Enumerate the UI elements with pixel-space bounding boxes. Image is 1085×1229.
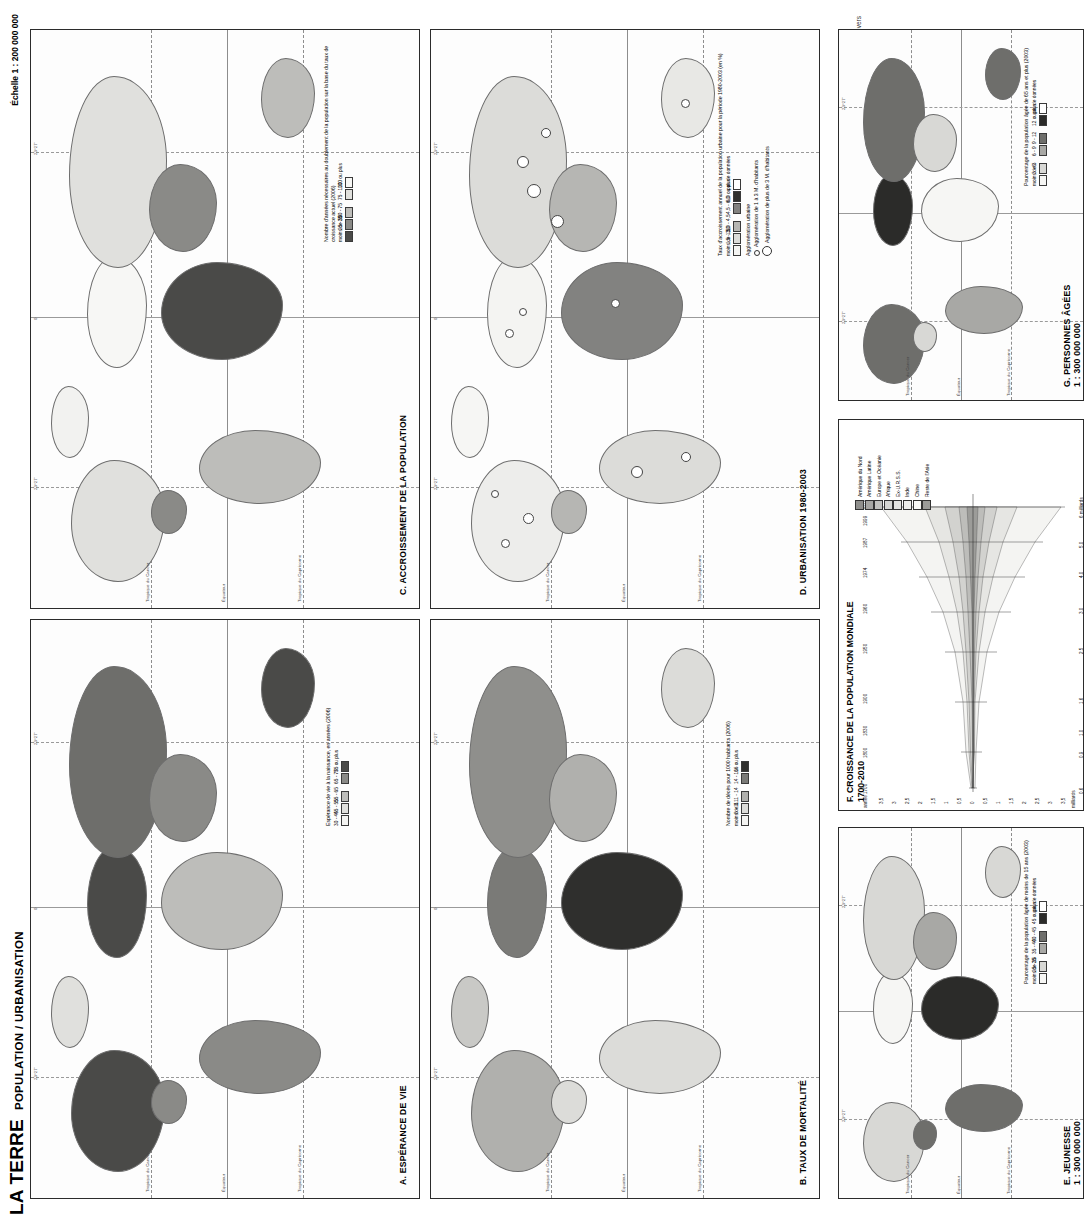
graticule-label-lat-n-d: 23°27' — [433, 477, 438, 490]
panel-e-scale: 1 : 300 000 000 — [1072, 1121, 1082, 1185]
panel-a-esperance-de-vie[interactable]: Tropique du Cancer Équateur Tropique du … — [30, 619, 420, 1199]
urban-agglomeration-circle — [631, 466, 643, 478]
legend-d-symbol-label-0: Agglomération de 1 à 3 M. d'habitants — [753, 160, 760, 247]
legend-a-label-0: 30 - 45 — [334, 815, 340, 826]
legend-c-swatch-3 — [345, 189, 353, 200]
urban-agglomeration-circle — [551, 215, 564, 228]
chart-f-ytick-8: 0,5 — [983, 798, 988, 804]
chart-f-ylabel: milliards — [1071, 790, 1076, 808]
urban-agglomeration-circle — [541, 128, 551, 138]
panel-b-caption: B. TAUX DE MORTALITÉ — [798, 1080, 808, 1185]
graticule-label-tropic-capricorn-a: Tropique du Capricorne — [297, 1145, 302, 1192]
legend-b-swatch-0 — [741, 815, 749, 826]
graticule-label-tropic-cancer-c: Tropique du Cancer — [145, 562, 150, 602]
legend-d-swatch-5 — [733, 179, 741, 190]
graticule-label-lat-s-g: 23°27' — [841, 97, 846, 110]
legend-a-swatch-3 — [341, 773, 349, 784]
chart-f-total-7: 5,0 — [1079, 542, 1084, 548]
legend-b-swatch-1 — [741, 803, 749, 814]
chart-f-total-5: 3,0 — [1079, 608, 1084, 614]
legend-d-label-4: 6,0 ou plus — [726, 191, 732, 202]
chart-f-legend-swatch-2 — [874, 500, 883, 510]
chart-f-total-1: 0,9 — [1079, 752, 1084, 758]
urban-agglomeration-circle — [527, 184, 541, 198]
chart-f-ytick-9: 1 — [996, 801, 1001, 804]
legend-b-label-0: moins de 8 — [734, 815, 740, 826]
chart-f-legend-label-2: Europe et Océanie — [876, 455, 882, 497]
graticule-label-equator-d: Équateur — [621, 584, 626, 602]
urban-agglomeration-circle — [501, 539, 510, 548]
map-b-canvas: Tropique du Cancer Équateur Tropique du … — [431, 620, 819, 1198]
urban-agglomeration-circle — [491, 490, 499, 498]
graticule-label-lat-0-c: 0 — [33, 318, 38, 321]
urban-agglomeration-circle — [519, 308, 527, 316]
legend-c-label-2: 50 - 75 — [338, 207, 344, 218]
graticule-label-tropic-cancer-g: Tropique du Cancer — [905, 356, 910, 396]
chart-f-ytick-6: 0,5 — [957, 798, 962, 804]
urban-agglomeration-circle — [505, 329, 514, 338]
chart-f-title: F. CROISSANCE DE LA POPULATION MONDIALE … — [845, 552, 866, 802]
graticule-label-tropic-cancer-a: Tropique du Cancer — [145, 1152, 150, 1192]
legend-b-swatch-2 — [741, 791, 749, 802]
legend-b-swatch-3 — [741, 773, 749, 784]
chart-f-ytick-11: 2 — [1022, 801, 1027, 804]
chart-f-legend-swatch-3 — [884, 500, 893, 510]
chart-f-xtick-1: 1800 — [863, 748, 868, 758]
panel-f-croissance-population-mondiale[interactable]: F. CROISSANCE DE LA POPULATION MONDIALE … — [838, 419, 1084, 811]
legend-d-swatch-2 — [733, 221, 741, 232]
urban-agglomeration-circle — [523, 513, 534, 524]
legend-a-label-2: 55 - 65 — [334, 791, 340, 802]
legend-a-swatch-1 — [341, 803, 349, 814]
graticule-label-tropic-capricorn-c: Tropique du Capricorne — [297, 555, 302, 602]
chart-f-xtick-5: 1960 — [863, 604, 868, 614]
graticule-label-equator-e: Équateur — [956, 1176, 961, 1194]
legend-e: Pourcentage de la population âgée de moi… — [1023, 834, 1047, 984]
legend-g-label-2: 6 - 9 — [1032, 145, 1038, 156]
legend-g-title: Pourcentage de la population âgée de 65 … — [1023, 36, 1030, 186]
legend-e-swatch-4 — [1039, 913, 1047, 924]
graticule-label-equator-g: Équateur — [956, 378, 961, 396]
legend-c-label-4: 100 ou plus — [338, 177, 344, 188]
legend-g-swatch-3 — [1039, 133, 1047, 144]
panel-e-jeunesse[interactable]: Tropique du Cancer Équateur Tropique du … — [838, 827, 1084, 1199]
legend-d-label-1: 1,5 - 3,0 — [726, 233, 732, 244]
panel-b-taux-de-mortalite[interactable]: Tropique du Cancer Équateur Tropique du … — [430, 619, 820, 1199]
legend-a-swatch-4 — [341, 761, 349, 772]
urban-agglomeration-circle — [611, 299, 620, 308]
chart-f-legend-item-2: Europe et Océanie — [874, 455, 883, 510]
legend-d-label-0: moins de 1,5 — [726, 245, 732, 256]
graticule-label-lat-n-b: 23°27' — [433, 1067, 438, 1080]
panel-g-scale: 1 : 300 000 000 — [1072, 285, 1082, 387]
chart-f-total-3: 1,6 — [1079, 698, 1084, 704]
graticule-label-tropic-capricorn-d: Tropique du Capricorne — [697, 555, 702, 602]
legend-e-swatches-1: moins de 25 25 - 35 — [1032, 961, 1047, 984]
legend-c-title: Nombre d'années nécessaires au doublemen… — [323, 42, 336, 242]
graticule-label-lat-0-a: 0 — [33, 908, 38, 911]
chart-f-ytick-12: 2,5 — [1035, 798, 1040, 804]
legend-d-symbol-title: Agglomération urbaine — [745, 40, 752, 256]
panel-d-urbanisation[interactable]: Tropique du Cancer Équateur Tropique du … — [430, 29, 820, 609]
panel-d-caption: D. URBANISATION 1980-2003 — [798, 469, 808, 595]
graticule-label-equator-b: Équateur — [621, 1174, 626, 1192]
legend-e-title: Pourcentage de la population âgée de moi… — [1023, 834, 1030, 984]
panel-g-caption-text: G. PERSONNES ÂGÉES — [1062, 285, 1072, 387]
panel-c-accroissement-population[interactable]: Tropique du Cancer Équateur Tropique du … — [30, 29, 420, 609]
graticule-label-equator-a: Équateur — [221, 1174, 226, 1192]
legend-c-swatch-1 — [345, 219, 353, 230]
chart-f-ytick-14: 3,5 — [1061, 798, 1066, 804]
graticule-label-lat-n-a: 23°27' — [33, 1067, 38, 1080]
legend-d-label-2: 3,0 - 4,5 — [726, 221, 732, 232]
legend-e-swatch-3 — [1039, 931, 1047, 942]
map-a-canvas: Tropique du Cancer Équateur Tropique du … — [31, 620, 419, 1198]
legend-g-swatches-1: moins de 3 3 - 6 — [1032, 163, 1047, 186]
chart-f-ytick-10: 1,5 — [1009, 798, 1014, 804]
chart-f-total-2: 1,0 — [1079, 730, 1084, 736]
panel-g-personnes-agees[interactable]: Tropique du Cancer Équateur Tropique du … — [838, 29, 1084, 401]
legend-d-swatches-2: 4,5 - 6,0 6,0 ou plus pas de données — [726, 179, 741, 214]
graticule-label-tropic-cancer-e: Tropique du Cancer — [905, 1154, 910, 1194]
panel-g-caption: G. PERSONNES ÂGÉES 1 : 300 000 000 — [1062, 285, 1082, 387]
legend-a-swatches-1: 30 - 45 45 - 55 55 - 65 — [334, 791, 349, 826]
chart-f-legend-label-1: Amérique Latine — [866, 461, 872, 497]
